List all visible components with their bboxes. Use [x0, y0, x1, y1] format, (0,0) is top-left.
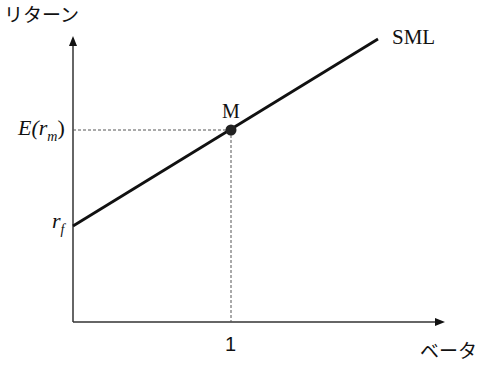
expected-return-sub: m	[47, 129, 57, 144]
risk-free-base: r	[52, 208, 61, 233]
risk-free-sub: f	[61, 222, 65, 237]
x-tick-1: 1	[225, 334, 236, 354]
x-axis-arrow-icon	[435, 318, 445, 326]
risk-free-label: rf	[52, 210, 64, 232]
market-portfolio-point	[226, 125, 237, 136]
market-point-label: M	[222, 101, 240, 121]
sml-label: SML	[392, 27, 435, 48]
sml-diagram	[0, 0, 481, 374]
expected-return-base: E(r	[18, 115, 47, 140]
y-axis-label: リターン	[4, 6, 79, 25]
expected-return-close: )	[57, 115, 64, 140]
expected-market-return-label: E(rm)	[18, 117, 65, 139]
sml-line	[73, 39, 378, 226]
x-axis-label: ベータ	[420, 342, 477, 361]
y-axis-arrow-icon	[69, 36, 77, 46]
